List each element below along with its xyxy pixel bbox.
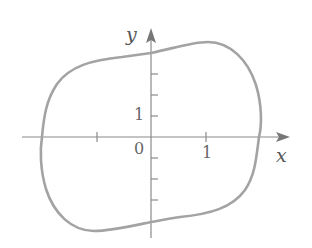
x-axis-label: x — [276, 146, 287, 165]
x-tick-label-1: 1 — [202, 145, 212, 161]
y-axis-label: y — [126, 25, 137, 44]
y-tick-label-1: 1 — [134, 107, 144, 123]
phase-plot — [0, 0, 312, 248]
origin-label: 0 — [134, 141, 144, 157]
